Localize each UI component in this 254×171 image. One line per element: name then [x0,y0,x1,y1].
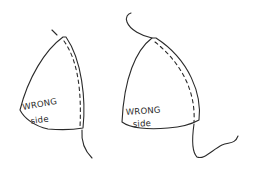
sewing-diagram: WRONG side WRONG side [0,0,254,171]
left-cup-label-line2: side [30,114,49,126]
right-bottom-thread-tail [193,124,238,158]
right-cup-piece: WRONG side [122,13,238,158]
left-cup-stitch-line [64,41,80,127]
right-cup-label-line2: side [133,118,152,129]
left-bottom-thread-tail [82,130,92,158]
left-cup-label-line1: WRONG [22,96,58,112]
right-top-thread-tail [126,13,152,38]
left-top-thread-tail [52,30,57,35]
right-cup-label-line1: WRONG [125,105,161,117]
left-cup-piece: WRONG side [20,30,92,158]
